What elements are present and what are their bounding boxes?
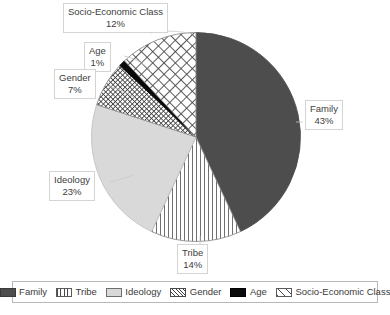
- slice-label-value: 1%: [89, 57, 106, 69]
- legend-item-ideology[interactable]: Ideology: [106, 287, 161, 297]
- slice-label-name: Socio-Economic Class: [68, 6, 163, 18]
- slice-label-name: Tribe: [182, 247, 203, 259]
- slice-label-value: 43%: [310, 115, 338, 127]
- slice-label-tribe: Tribe 14%: [177, 244, 208, 274]
- legend-label-age: Age: [250, 287, 267, 297]
- legend-label-socio-economic-class: Socio-Economic Class: [295, 287, 390, 297]
- slice-label-family: Family 43%: [305, 100, 343, 130]
- legend-item-age[interactable]: Age: [230, 287, 266, 297]
- slice-label-value: 23%: [54, 186, 90, 198]
- legend-label-tribe: Tribe: [76, 287, 97, 297]
- slice-label-gender: Gender 7%: [54, 69, 96, 99]
- legend-swatch-socio-economic-class: [276, 288, 292, 297]
- legend-item-tribe[interactable]: Tribe: [56, 287, 97, 297]
- slice-label-value: 14%: [182, 259, 203, 271]
- slice-label-name: Family: [310, 103, 338, 115]
- chart-legend: FamilyTribeIdeologyGenderAgeSocio-Econom…: [12, 281, 378, 303]
- pie-chart: Socio-Economic Class 12% Age 1% Gender 7…: [0, 0, 390, 315]
- legend-swatch-family: [0, 288, 16, 297]
- legend-swatch-tribe: [56, 288, 72, 297]
- legend-item-family[interactable]: Family: [0, 287, 47, 297]
- legend-swatch-ideology: [106, 288, 122, 297]
- slice-label-age: Age 1%: [84, 42, 111, 72]
- legend-item-gender[interactable]: Gender: [170, 287, 221, 297]
- legend-label-gender: Gender: [190, 287, 222, 297]
- legend-swatch-gender: [170, 288, 186, 297]
- legend-label-family: Family: [19, 287, 47, 297]
- slice-label-value: 12%: [68, 18, 163, 30]
- slice-label-name: Ideology: [54, 174, 90, 186]
- legend-item-socio-economic-class[interactable]: Socio-Economic Class: [276, 287, 390, 297]
- slice-label-name: Gender: [59, 72, 91, 84]
- slice-label-value: 7%: [59, 84, 91, 96]
- slice-label-socio-economic-class: Socio-Economic Class 12%: [63, 3, 168, 33]
- slice-label-name: Age: [89, 45, 106, 57]
- legend-swatch-age: [230, 288, 246, 297]
- legend-label-ideology: Ideology: [125, 287, 161, 297]
- slice-label-ideology: Ideology 23%: [49, 171, 95, 201]
